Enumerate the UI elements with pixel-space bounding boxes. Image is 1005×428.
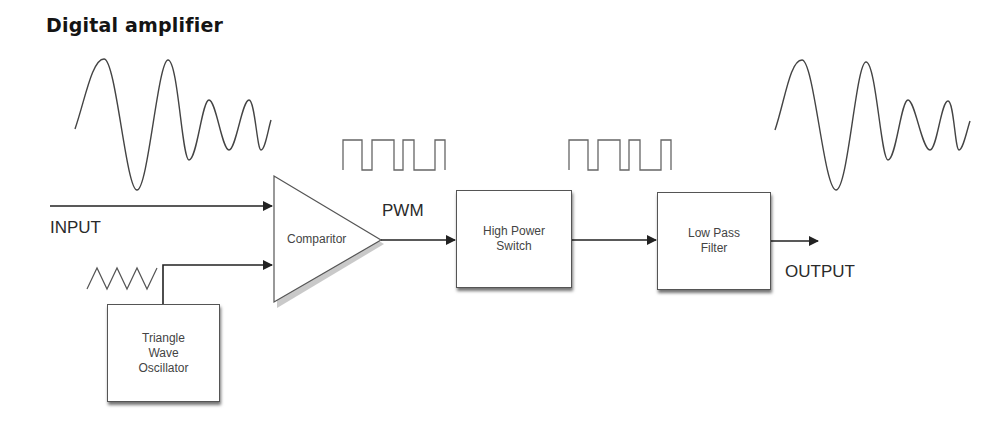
oscillator-arrow: [163, 265, 272, 304]
input-label: INPUT: [50, 218, 101, 238]
low-pass-filter-block: Low Pass Filter: [657, 192, 771, 290]
oscillator-label: Triangle Wave Oscillator: [138, 331, 188, 376]
triangle-wave-icon: [87, 268, 157, 289]
oscillator-block: Triangle Wave Oscillator: [107, 304, 220, 402]
output-label: OUTPUT: [785, 262, 855, 282]
input-waveform-icon: [75, 59, 271, 190]
output-waveform-icon: [775, 60, 970, 190]
comparator-label: Comparitor: [287, 232, 346, 246]
pwm-waveform-icon: [343, 140, 445, 170]
pwm-label: PWM: [382, 201, 424, 221]
switch-label: High Power Switch: [483, 224, 545, 254]
pwm-waveform-icon: [569, 140, 671, 170]
filter-label: Low Pass Filter: [688, 226, 740, 256]
high-power-switch-block: High Power Switch: [456, 190, 572, 288]
